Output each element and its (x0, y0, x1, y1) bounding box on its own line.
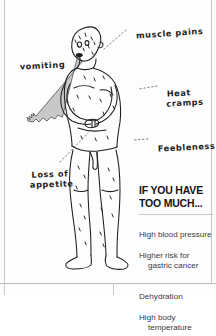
torso-right (93, 68, 121, 147)
label-vomiting: vomiting (12, 48, 65, 72)
label-feebleness: Feebleness (150, 130, 216, 154)
list-item: Dehydration (139, 282, 213, 303)
groin (90, 152, 97, 169)
label-heat-cramps: Heatcramps (159, 76, 204, 120)
leader-heat-cramps (139, 86, 157, 89)
list-item: High blood pressure (139, 220, 213, 241)
list-item: High bodytemperature (139, 303, 213, 336)
leg-right-outer (116, 150, 120, 257)
info-box-list: High blood pressure Higher risk forgastr… (139, 220, 213, 336)
leader-feebleness (133, 139, 148, 140)
arm-right (96, 85, 117, 124)
foot-right (105, 256, 128, 269)
eye-right (85, 41, 89, 46)
leg-left-inner (88, 152, 91, 255)
leader-muscle-pains (103, 30, 126, 50)
label-loss-of-appetite: Loss ofappetite (24, 157, 74, 201)
leg-right-inner (97, 152, 106, 256)
list-item: Higher risk forgastric cancer (139, 241, 213, 282)
info-box-divider (139, 214, 213, 215)
foot-left (66, 255, 92, 269)
info-box-heading: IF YOU HAVE TOO MUCH... (139, 184, 207, 209)
hips (72, 146, 117, 151)
eye-left (77, 42, 81, 47)
info-box: IF YOU HAVE TOO MUCH... High blood press… (139, 184, 213, 336)
mouth (76, 53, 83, 57)
